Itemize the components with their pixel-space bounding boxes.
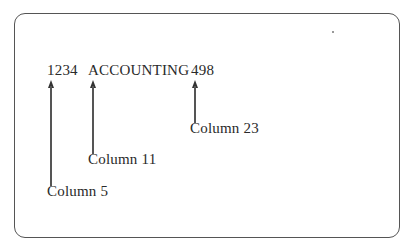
field-value-amount: 498 — [191, 63, 214, 78]
label-column-5: Column 5 — [47, 184, 108, 199]
field-value-id: 1234 — [47, 63, 78, 78]
label-column-23: Column 23 — [190, 121, 259, 136]
label-column-11: Column 11 — [88, 152, 156, 167]
stray-mark — [332, 31, 334, 33]
field-value-department: ACCOUNTING — [88, 63, 189, 78]
